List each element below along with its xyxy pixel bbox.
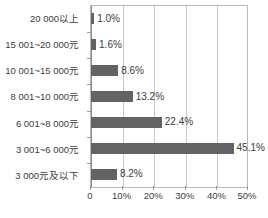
x-axis-tick-label: 20%: [144, 190, 163, 201]
y-axis-tick-label: 20 000以上: [30, 11, 79, 25]
bar-chart: 20 000以上 15 001~20 000元 10 001~15 000元 8…: [0, 0, 268, 218]
y-axis-tick-label: 10 001~15 000元: [5, 63, 79, 77]
y-axis-label-row: 15 001~20 000元: [0, 31, 84, 57]
y-axis-tick-label: 6 001~8 000元: [16, 116, 79, 130]
x-axis-labels: 0 10% 20% 30% 40% 50%: [90, 190, 248, 206]
bar-data-label: 8.2%: [120, 169, 143, 179]
bar-data-label: 45.1%: [237, 143, 265, 153]
bar: [91, 169, 117, 180]
y-axis-label-row: 20 000以上: [0, 5, 84, 31]
bar-data-label: 13.2%: [136, 92, 164, 102]
bar: [91, 13, 94, 24]
plot-inner: 1.0% 1.6% 8.6% 13.2% 22.4%: [91, 6, 247, 187]
bar-data-label: 22.4%: [165, 117, 193, 127]
y-axis-label-row: 8 001~10 000元: [0, 83, 84, 109]
x-axis-tick-label: 30%: [175, 190, 194, 201]
bar-row: 1.6%: [91, 32, 247, 58]
bar: [91, 39, 96, 50]
bar: [91, 65, 118, 76]
bar: [91, 117, 162, 128]
y-axis-tick-label: 3 001~6 000元: [16, 142, 79, 156]
y-axis-label-row: 3 001~6 000元: [0, 136, 84, 162]
y-axis-label-row: 6 001~8 000元: [0, 110, 84, 136]
y-axis-label-row: 10 001~15 000元: [0, 57, 84, 83]
plot-area: 1.0% 1.6% 8.6% 13.2% 22.4%: [90, 5, 248, 188]
bar-row: 8.2%: [91, 161, 247, 187]
x-axis-tick-label: 40%: [207, 190, 226, 201]
bar-data-label: 1.0%: [97, 14, 120, 24]
bar: [91, 143, 234, 154]
bar-data-label: 8.6%: [121, 66, 144, 76]
bar-row: 22.4%: [91, 109, 247, 135]
bar-rows: 1.0% 1.6% 8.6% 13.2% 22.4%: [91, 6, 247, 187]
y-axis-tick-label: 15 001~20 000元: [5, 37, 79, 51]
y-axis-tick-label: 8 001~10 000元: [11, 89, 79, 103]
y-axis-label-row: 3 000元及以下: [0, 162, 84, 188]
bar: [91, 91, 133, 102]
bar-row: 45.1%: [91, 135, 247, 161]
y-axis-tick-label: 3 000元及以下: [15, 168, 79, 182]
x-axis-tick-label: 0: [87, 190, 92, 201]
bar-row: 8.6%: [91, 58, 247, 84]
bar-row: 1.0%: [91, 6, 247, 32]
x-axis-tick-label: 50%: [237, 190, 256, 201]
y-axis-labels: 20 000以上 15 001~20 000元 10 001~15 000元 8…: [0, 5, 84, 188]
bar-row: 13.2%: [91, 84, 247, 110]
bar-data-label: 1.6%: [99, 40, 122, 50]
x-axis-tick-label: 10%: [112, 190, 131, 201]
